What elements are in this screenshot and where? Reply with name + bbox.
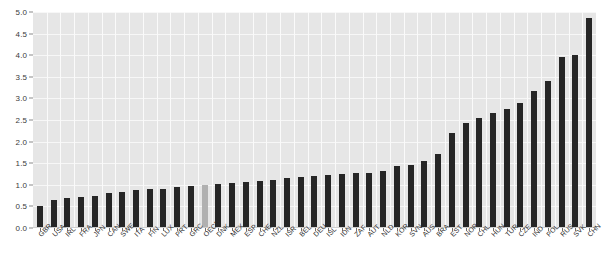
bar-esp[interactable] [243,182,249,228]
bar-slot [363,12,377,228]
y-axis-tick-label: 3.0 [16,94,27,103]
bar-aus[interactable] [421,161,427,228]
bar-slot [500,12,514,228]
bar-svn[interactable] [408,165,414,229]
bar-slot [445,12,459,228]
bar-slot [514,12,528,228]
bar-slot [170,12,184,228]
bar-fra[interactable] [78,197,84,228]
y-axis-tick-label: 2.5 [16,116,27,125]
bar-series [33,12,596,228]
bar-ita[interactable] [133,190,139,228]
bar-slot [212,12,226,228]
bar-slot [431,12,445,228]
y-axis-tick-label: 4.0 [16,51,27,60]
bar-swe[interactable] [119,192,125,228]
bar-slot [184,12,198,228]
x-axis: GBRUSAIRLFRAJPNCANSWEITAFINLUXPRTGRCOECD… [33,228,596,259]
bar-che[interactable] [257,181,263,228]
bar-slot [47,12,61,228]
bar-slot [157,12,171,228]
bar-slot [266,12,280,228]
bar-slot [404,12,418,228]
bar-slot [321,12,335,228]
bar-prt[interactable] [174,187,180,228]
bar-jpn[interactable] [92,196,98,228]
bar-gbr[interactable] [37,206,43,228]
bar-slot [555,12,569,228]
bar-slot [88,12,102,228]
bar-bra[interactable] [435,154,441,228]
y-axis-tick-label: 2.0 [16,137,27,146]
bar-slot [33,12,47,228]
bar-slot [417,12,431,228]
bar-slot [143,12,157,228]
bar-ind[interactable] [531,91,537,228]
bar-nor[interactable] [463,123,469,228]
bar-slot [102,12,116,228]
y-axis-tick-label: 0.5 [16,202,27,211]
bar-zaf[interactable] [353,173,359,228]
bar-nld[interactable] [380,171,386,228]
bar-deu[interactable] [311,176,317,228]
bar-mex[interactable] [229,183,235,228]
bar-slot [239,12,253,228]
bar-isl[interactable] [325,175,331,228]
bar-fin[interactable] [147,189,153,228]
bar-svk[interactable] [572,55,578,228]
bar-kor[interactable] [394,166,400,228]
bar-slot [390,12,404,228]
bar-irl[interactable] [64,198,70,228]
bar-lux[interactable] [160,189,166,228]
bar-chn[interactable] [586,18,592,228]
bar-slot [308,12,322,228]
y-axis-tick-label: 3.5 [16,72,27,81]
y-axis-tick-label: 4.5 [16,29,27,38]
bar-can[interactable] [106,193,112,228]
bar-idn[interactable] [339,174,345,228]
bar-aut[interactable] [366,173,372,228]
plot-area [33,12,596,228]
bar-slot [115,12,129,228]
bar-slot [335,12,349,228]
bar-slot [294,12,308,228]
bar-pol[interactable] [545,81,551,228]
bar-slot [472,12,486,228]
bar-slot [582,12,596,228]
bar-slot [541,12,555,228]
bar-slot [527,12,541,228]
bar-slot [74,12,88,228]
bar-slot [253,12,267,228]
bar-chl[interactable] [476,118,482,228]
bar-bel[interactable] [298,177,304,228]
bar-cze[interactable] [517,103,523,228]
bar-usa[interactable] [51,200,57,228]
y-axis-tick-label: 1.5 [16,159,27,168]
bar-rus[interactable] [559,57,565,228]
bar-slot [486,12,500,228]
bar-slot [459,12,473,228]
bar-slot [376,12,390,228]
y-axis-tick-label: 1.0 [16,180,27,189]
bar-est[interactable] [449,133,455,228]
x-axis-label-ita: ITA [133,225,145,237]
bar-slot [198,12,212,228]
bar-hun[interactable] [490,113,496,228]
bar-slot [569,12,583,228]
bar-slot [60,12,74,228]
bar-slot [129,12,143,228]
bar-slot [280,12,294,228]
bar-chart: 0.00.51.01.52.02.53.03.54.04.55.0 GBRUSA… [0,0,602,259]
bar-isr[interactable] [284,178,290,228]
y-axis-tick-label: 5.0 [16,8,27,17]
bar-oecd[interactable] [202,185,208,228]
bar-nzl[interactable] [270,180,276,228]
bar-slot [349,12,363,228]
bar-slot [225,12,239,228]
y-axis-tick-label: 0.0 [16,224,27,233]
bar-tur[interactable] [504,109,510,228]
y-axis: 0.00.51.01.52.02.53.03.54.04.55.0 [0,0,33,259]
bar-grc[interactable] [188,186,194,228]
